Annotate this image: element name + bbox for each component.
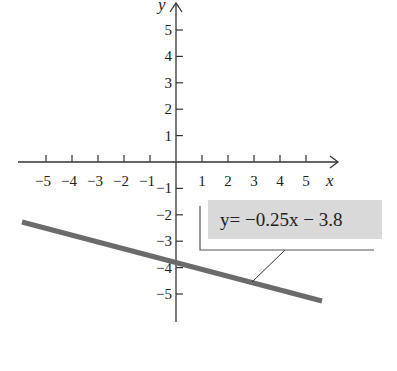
x-tick-label: −1 (139, 173, 155, 189)
y-tick-label: −3 (156, 233, 172, 249)
y-tick-label: −1 (156, 180, 172, 196)
y-tick-label: 5 (165, 22, 173, 38)
x-axis-label: x (325, 171, 334, 190)
y-tick-label: −5 (156, 286, 172, 302)
x-tick-label: 3 (250, 173, 258, 189)
y-tick-label: 2 (165, 101, 173, 117)
chart: −5−4−3−2−112345 54321−1−2−3−4−5 x y y= −… (0, 0, 397, 371)
x-tick-label: −4 (61, 173, 77, 189)
x-tick-label: −2 (113, 173, 129, 189)
y-tick-label: −2 (156, 207, 172, 223)
y-tick-label: 1 (165, 128, 173, 144)
x-ticks: −5−4−3−2−112345 (35, 155, 310, 189)
y-axis-label: y (156, 0, 166, 14)
equation-label: y= −0.25x − 3.8 (220, 209, 342, 230)
y-tick-label: 3 (165, 75, 173, 91)
x-tick-label: −3 (87, 173, 103, 189)
y-tick-label: 4 (165, 48, 173, 64)
x-tick-label: −5 (35, 173, 51, 189)
x-tick-label: 2 (224, 173, 232, 189)
x-tick-label: 5 (302, 173, 310, 189)
x-tick-label: 1 (198, 173, 206, 189)
x-tick-label: 4 (276, 173, 284, 189)
leader-line (252, 250, 285, 282)
